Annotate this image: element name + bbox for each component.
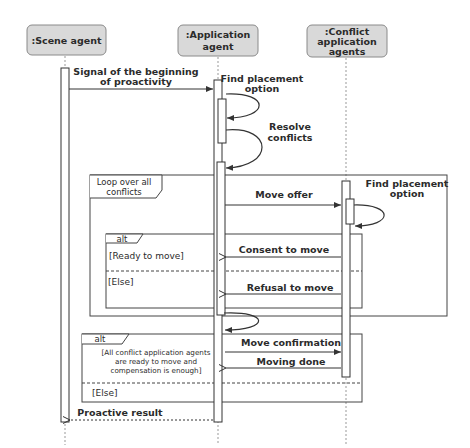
- activation-scene-agent: [61, 68, 69, 422]
- self-message-resolve-label-2: conflicts: [267, 132, 312, 143]
- guard-ready-to-move: [Ready to move]: [109, 251, 184, 261]
- alt-label: alt: [117, 234, 129, 244]
- actor-application-agent-label-2: agent: [203, 41, 234, 52]
- message-move-offer-label: Move offer: [255, 189, 313, 200]
- self-message-resolve-label-1: Resolve: [269, 121, 311, 132]
- self-message-find-placement: [226, 94, 259, 118]
- activation-find-placement: [218, 99, 226, 143]
- actor-application-agent: :Application agent: [178, 25, 258, 56]
- actor-conflict-agents: :Conflict application agents: [307, 25, 387, 57]
- guard-all-ready-2: are ready to move and: [115, 357, 197, 366]
- message-refusal-label: Refusal to move: [247, 282, 334, 293]
- actor-application-agent-label-1: :Application: [186, 29, 251, 40]
- actor-scene-agent: :Scene agent: [27, 25, 106, 55]
- message-move-confirmation-label: Move confirmation: [241, 337, 341, 348]
- activation-resolve-conflicts: [217, 162, 225, 315]
- loop-label-1: Loop over all: [97, 177, 152, 187]
- self-message-conflict-find-placement: [354, 205, 384, 226]
- guard-all-ready-3: compensation is enough]: [111, 366, 202, 375]
- sequence-diagram: :Scene agent :Application agent :Conflic…: [0, 0, 470, 448]
- message-consent-label: Consent to move: [239, 244, 329, 255]
- guard-else-2: [Else]: [92, 388, 117, 398]
- activation-conflict-find-placement: [346, 199, 354, 224]
- actor-conflict-agents-label-3: agents: [329, 46, 366, 57]
- self-message-find-placement-label-2: option: [245, 83, 280, 94]
- actor-scene-agent-label: :Scene agent: [31, 35, 102, 46]
- guard-else: [Else]: [108, 277, 133, 287]
- message-moving-done-label: Moving done: [257, 356, 326, 367]
- loop-label-2: conflicts: [106, 187, 142, 197]
- guard-all-ready-1: [All conflict application agents: [102, 348, 211, 357]
- alt-label-2: alt: [95, 334, 107, 344]
- self-message-after-loop: [224, 313, 259, 330]
- self-message-conflict-find-label-2: option: [390, 188, 425, 199]
- message-signal-label-2: of proactivity: [100, 76, 173, 87]
- message-proactive-result-label: Proactive result: [77, 407, 163, 418]
- self-message-resolve-conflicts: [226, 130, 262, 168]
